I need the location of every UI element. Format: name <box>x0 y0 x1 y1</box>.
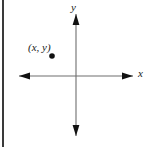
x-axis-label: x <box>138 68 143 79</box>
y-axis-positive-arrowhead-icon <box>73 14 80 25</box>
plotted-point-marker <box>49 53 55 59</box>
point-coordinate-label: (x, y) <box>28 41 51 53</box>
x-axis-negative-arrowhead-icon <box>19 72 30 79</box>
y-axis-negative-arrowhead-icon <box>73 125 80 136</box>
coordinate-plane-figure: y x (x, y) <box>0 0 156 147</box>
coordinate-axes-diagram <box>0 0 156 147</box>
x-axis-positive-arrowhead-icon <box>122 72 133 79</box>
y-axis-label: y <box>71 2 76 13</box>
